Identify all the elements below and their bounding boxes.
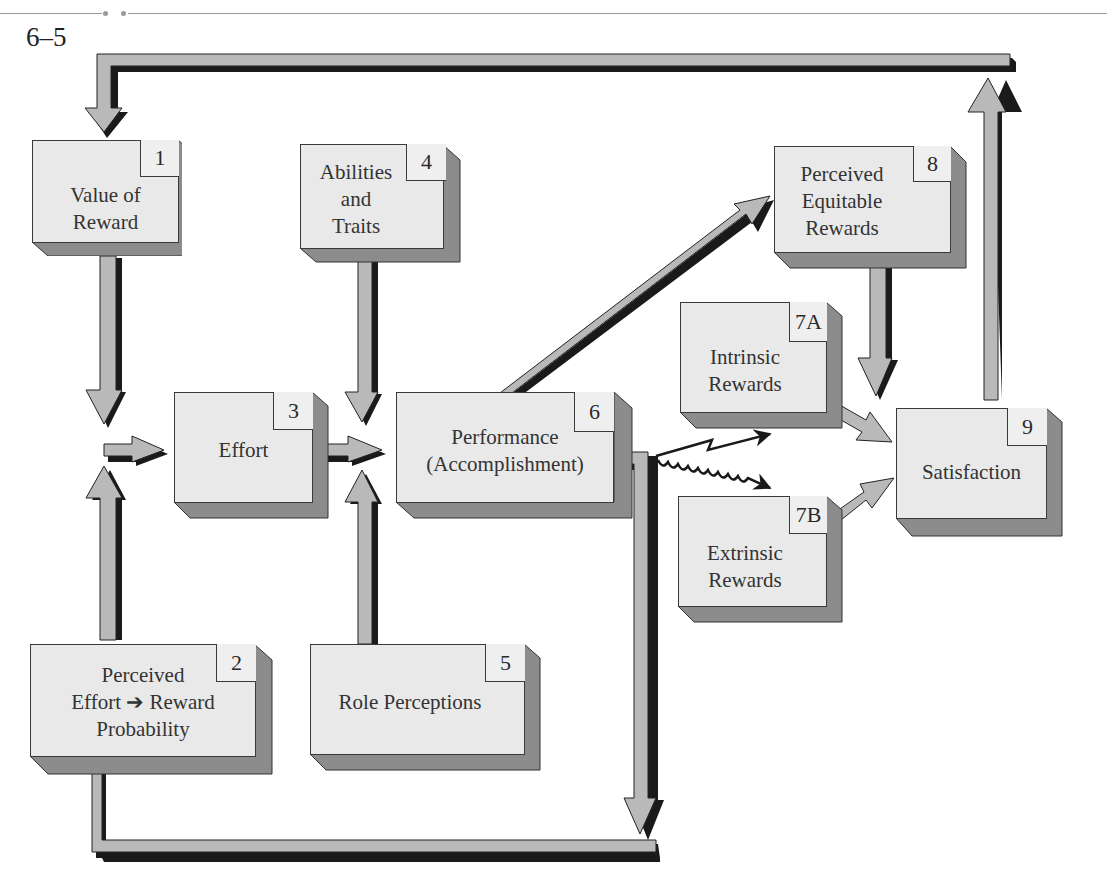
arrow-abilities-to-performance-junction (345, 256, 382, 426)
box-performance: 6 Performance (Accomplishment) (396, 392, 614, 502)
zigzag-arrow-performance-to-intrinsic (656, 434, 770, 456)
box-value-of-reward: 1 Value of Reward (32, 140, 182, 256)
box-label: Role Perceptions (310, 674, 510, 730)
box-label: Abilities and Traits (294, 156, 418, 242)
box-number: 1 (140, 140, 179, 177)
box-label: Effort (174, 422, 313, 478)
box-number: 9 (1007, 408, 1047, 446)
arrow-value-to-effort-junction (86, 256, 126, 428)
box-label: Perceived Effort ➔ Reward Probability (30, 656, 256, 748)
box-label: Extrinsic Rewards (678, 536, 812, 598)
box-perceived-equitable-rewards: 8 Perceived Equitable Rewards (774, 146, 950, 252)
box-extrinsic-rewards: 7B Extrinsic Rewards (678, 496, 826, 606)
box-label: Performance (Accomplishment) (396, 416, 614, 486)
wavy-arrow-performance-to-extrinsic (658, 460, 770, 488)
box-role-perceptions: 5 Role Perceptions (310, 644, 524, 756)
box-label: Satisfaction (896, 444, 1047, 500)
arrow-role-to-performance-junction (345, 470, 382, 644)
arrow-probability-to-effort-junction (86, 466, 126, 640)
box-abilities-and-traits: 4 Abilities and Traits (300, 144, 444, 250)
box-satisfaction: 9 Satisfaction (896, 408, 1046, 520)
box-label: Intrinsic Rewards (680, 340, 810, 402)
box-intrinsic-rewards: 7A Intrinsic Rewards (680, 302, 826, 412)
box-number: 7A (789, 302, 827, 342)
box-label: Perceived Equitable Rewards (774, 156, 910, 246)
box-effort-reward-probability: 2 Perceived Effort ➔ Reward Probability (30, 644, 256, 762)
box-number: 8 (913, 146, 951, 182)
box-effort: 3 Effort (174, 392, 312, 504)
arrow-junction-to-effort (104, 436, 168, 466)
box-number: 7B (789, 496, 827, 534)
box-label: Value of Reward (32, 176, 179, 242)
arrow-equitable-to-satisfaction (858, 258, 898, 400)
